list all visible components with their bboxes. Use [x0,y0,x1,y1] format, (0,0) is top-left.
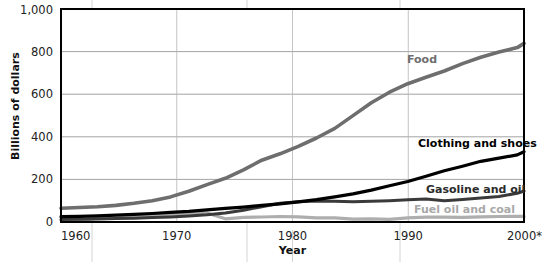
y-tick-label-1000: 1,000 [20,3,53,17]
x-tick-label-1970: 1970 [162,229,191,243]
y-tick-label-200: 200 [31,172,53,186]
x-tick-label-1960: 1960 [61,229,90,243]
y-tick-label-600: 600 [31,87,53,101]
chart-figure: 0 200 400 600 800 1,000 1960 1970 1980 1… [0,0,545,262]
series-label-food: Food [407,53,437,66]
y-tick-label-400: 400 [31,130,53,144]
x-tick-label-1980: 1980 [278,229,307,243]
y-tick-label-0: 0 [46,215,53,229]
series-label-gasoline-and-oil: Gasoline and oil [426,183,525,196]
expenditure-line-chart: 0 200 400 600 800 1,000 1960 1970 1980 1… [0,0,545,262]
x-tick-label-1990: 1990 [394,229,423,243]
x-tick-label-2000: 2000* [507,229,542,243]
y-axis-title: Billions of dollars [9,52,22,160]
x-axis-title: Year [278,244,307,257]
y-tick-label-800: 800 [31,45,53,59]
series-label-clothing-and-shoes: Clothing and shoes [418,137,537,150]
series-label-fuel-oil-and-coal: Fuel oil and coal [414,203,515,216]
